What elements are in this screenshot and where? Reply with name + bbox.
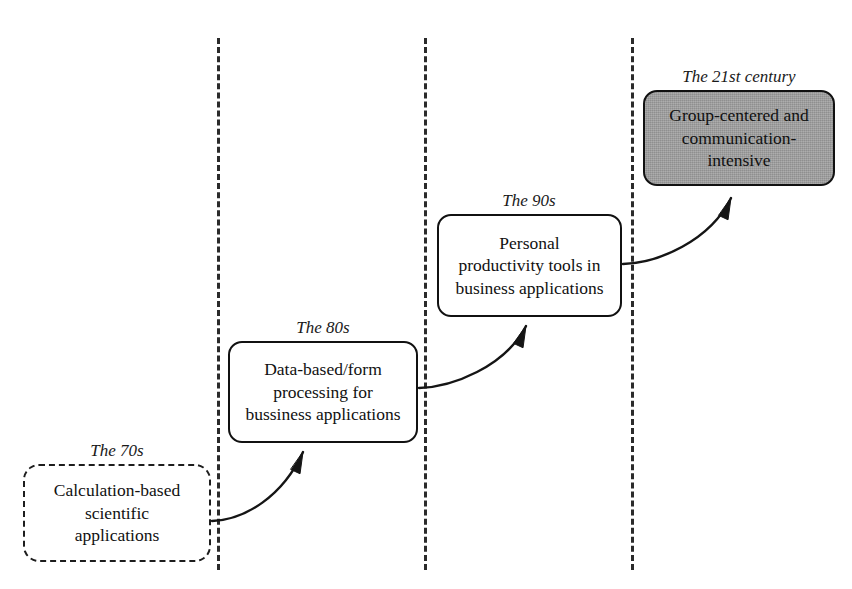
arrow-70s-to-80s (212, 452, 303, 521)
arrow-90s-to-21st (623, 198, 731, 264)
era-label-80s: The 80s (296, 319, 349, 336)
stage-box-70s-text: Calculation-basedscientificapplications (31, 479, 203, 546)
arrow-80s-to-90s-head (514, 326, 526, 348)
era-label-70s: The 70s (90, 442, 143, 459)
era-divider-1 (217, 38, 220, 570)
era-label-21st-century: The 21st century (682, 68, 795, 85)
diagram-canvas: The 70s The 80s The 90s The 21st century… (0, 0, 852, 589)
era-divider-2 (424, 38, 427, 570)
stage-box-80s-text: Data-based/formprocessing forbussiness a… (236, 358, 410, 425)
stage-box-70s[interactable]: Calculation-basedscientificapplications (23, 464, 211, 562)
stage-box-90s-text: Personalproductivity tools inbusiness ap… (445, 232, 614, 299)
arrow-80s-to-90s (419, 326, 526, 388)
stage-box-80s[interactable]: Data-based/formprocessing forbussiness a… (228, 341, 418, 443)
arrow-70s-to-80s-head (291, 452, 303, 474)
era-divider-3 (631, 38, 634, 570)
stage-box-90s[interactable]: Personalproductivity tools inbusiness ap… (437, 214, 622, 317)
stage-box-21st-century-text: Group-centered andcommunication-intensiv… (651, 104, 827, 171)
arrow-90s-to-21st-head (719, 198, 731, 220)
era-label-90s: The 90s (502, 192, 555, 209)
stage-box-21st-century[interactable]: Group-centered andcommunication-intensiv… (643, 90, 835, 186)
